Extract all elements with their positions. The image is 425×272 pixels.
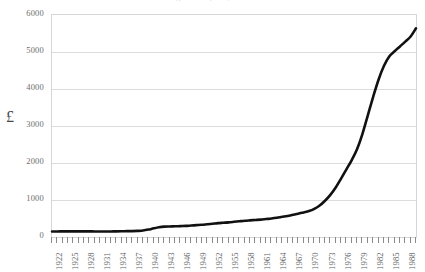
y-tick-label: 4000 <box>4 83 44 92</box>
plot-area <box>51 14 417 238</box>
x-tick-mark <box>324 237 325 243</box>
y-tick-label: 5000 <box>4 46 44 55</box>
x-tick-mark <box>367 237 368 243</box>
x-tick-mark <box>335 237 336 243</box>
x-tick-label: 1961 <box>263 252 272 270</box>
x-tick-label: 1949 <box>199 252 208 270</box>
x-tick-mark <box>142 237 143 243</box>
x-tick-mark <box>383 237 384 243</box>
x-tick-mark <box>51 237 52 243</box>
x-tick-mark <box>174 237 175 243</box>
x-tick-mark <box>378 237 379 243</box>
x-tick-mark <box>83 237 84 243</box>
x-tick-label: 1988 <box>408 252 417 270</box>
x-tick-mark <box>292 237 293 243</box>
x-tick-label: 1934 <box>119 252 128 270</box>
x-tick-mark <box>399 237 400 243</box>
x-tick-mark <box>415 237 416 243</box>
x-tick-mark <box>105 237 106 243</box>
x-tick-label: 1970 <box>311 252 320 270</box>
x-tick-mark <box>388 237 389 243</box>
x-tick-mark <box>308 237 309 243</box>
x-tick-mark <box>185 237 186 243</box>
x-tick-mark <box>153 237 154 243</box>
x-tick-mark <box>206 237 207 243</box>
x-tick-mark <box>249 237 250 243</box>
x-tick-mark <box>329 237 330 243</box>
x-tick-mark <box>244 237 245 243</box>
x-tick-label: 1964 <box>279 252 288 270</box>
x-tick-mark <box>404 237 405 243</box>
x-tick-mark <box>147 237 148 243</box>
x-tick-mark <box>94 237 95 243</box>
x-tick-mark <box>62 237 63 243</box>
x-tick-mark <box>281 237 282 243</box>
x-tick-label: 1943 <box>167 252 176 270</box>
y-tick-label: 6000 <box>4 9 44 18</box>
series-line <box>52 15 416 237</box>
x-tick-mark <box>158 237 159 243</box>
x-tick-mark <box>179 237 180 243</box>
x-tick-label: 1967 <box>295 252 304 270</box>
x-tick-label: 1973 <box>328 252 337 270</box>
x-axis-tick-labels: 1922192519281931193419371940194319461949… <box>51 244 415 272</box>
x-tick-label: 1979 <box>360 252 369 270</box>
x-tick-mark <box>372 237 373 243</box>
x-tick-label: 1955 <box>231 252 240 270</box>
series-path <box>52 28 416 231</box>
x-tick-mark <box>78 237 79 243</box>
y-tick-label: 0 <box>4 231 44 240</box>
x-tick-mark <box>297 237 298 243</box>
x-tick-label: 1922 <box>55 252 64 270</box>
x-tick-mark <box>303 237 304 243</box>
x-tick-mark <box>126 237 127 243</box>
x-tick-mark <box>222 237 223 243</box>
x-tick-mark <box>260 237 261 243</box>
x-tick-label: 1940 <box>151 252 160 270</box>
x-tick-mark <box>313 237 314 243</box>
x-tick-mark <box>394 237 395 243</box>
x-tick-mark <box>217 237 218 243</box>
x-tick-label: 1928 <box>87 252 96 270</box>
x-tick-mark <box>410 237 411 243</box>
x-tick-mark <box>233 237 234 243</box>
x-tick-label: 1976 <box>344 252 353 270</box>
x-tick-mark <box>88 237 89 243</box>
x-tick-mark <box>67 237 68 243</box>
x-tick-mark <box>254 237 255 243</box>
x-tick-mark <box>319 237 320 243</box>
x-tick-label: 1985 <box>392 252 401 270</box>
x-tick-mark <box>99 237 100 243</box>
x-tick-label: 1982 <box>376 252 385 270</box>
x-tick-mark <box>137 237 138 243</box>
chart-container: Average house price, 1922-1990 £ 0100020… <box>0 0 425 272</box>
x-tick-label: 1937 <box>135 252 144 270</box>
x-tick-mark <box>238 237 239 243</box>
x-tick-mark <box>56 237 57 243</box>
x-tick-mark <box>190 237 191 243</box>
y-tick-label: 1000 <box>4 194 44 203</box>
x-tick-mark <box>276 237 277 243</box>
x-tick-label: 1952 <box>215 252 224 270</box>
x-tick-mark <box>270 237 271 243</box>
x-tick-mark <box>121 237 122 243</box>
x-tick-mark <box>212 237 213 243</box>
x-tick-label: 1925 <box>71 252 80 270</box>
x-tick-mark <box>131 237 132 243</box>
x-tick-mark <box>72 237 73 243</box>
x-tick-mark <box>356 237 357 243</box>
x-tick-mark <box>351 237 352 243</box>
chart-title: Average house price, 1922-1990 <box>0 0 425 1</box>
x-tick-mark <box>201 237 202 243</box>
y-tick-label: 3000 <box>4 120 44 129</box>
x-tick-mark <box>340 237 341 243</box>
x-tick-mark <box>228 237 229 243</box>
x-tick-mark <box>287 237 288 243</box>
x-tick-mark <box>163 237 164 243</box>
x-tick-mark <box>115 237 116 243</box>
y-tick-label: 2000 <box>4 157 44 166</box>
x-tick-label: 1958 <box>247 252 256 270</box>
x-tick-mark <box>110 237 111 243</box>
x-tick-label: 1931 <box>103 252 112 270</box>
x-axis-tick-marks <box>51 237 415 243</box>
